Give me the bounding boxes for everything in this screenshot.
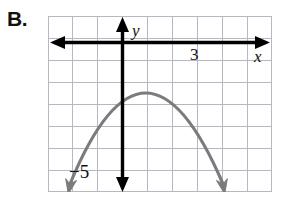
plot-text-labels: y x 3 −5 — [48, 16, 272, 192]
figure-canvas: B. — [0, 0, 290, 204]
y-tick-label-negative-5: −5 — [69, 162, 89, 181]
x-axis-label: x — [254, 48, 262, 65]
coordinate-plane: y x 3 −5 — [48, 16, 272, 192]
y-axis-label: y — [132, 22, 140, 39]
x-tick-label-3: 3 — [190, 46, 199, 63]
figure-label: B. — [7, 8, 27, 29]
